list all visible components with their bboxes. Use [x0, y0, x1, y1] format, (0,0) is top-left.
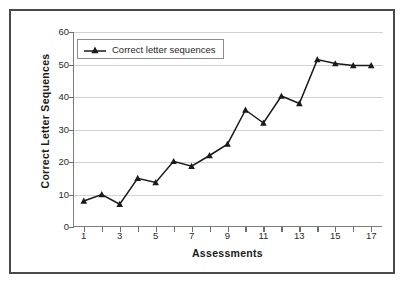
legend-item-label: Correct letter sequences: [112, 44, 216, 55]
data-point-marker: [134, 175, 141, 181]
data-point-marker: [242, 107, 249, 113]
series-line: [84, 60, 371, 205]
legend-triangle-marker-icon: [83, 43, 107, 55]
chart-legend: Correct letter sequences: [77, 39, 224, 59]
data-point-marker: [98, 191, 105, 197]
figure-border: 0102030405060 1357911131517 Correct lett…: [9, 9, 395, 274]
data-point-marker: [278, 93, 285, 99]
y-axis-title: Correct Letter Sequences: [39, 21, 51, 221]
data-point-marker: [314, 56, 321, 62]
chart-canvas: 0102030405060 1357911131517 Correct lett…: [11, 11, 397, 272]
data-point-marker: [224, 141, 231, 147]
x-axis-title: Assessments: [73, 247, 382, 259]
data-point-marker: [206, 152, 213, 158]
data-point-marker: [170, 158, 177, 164]
